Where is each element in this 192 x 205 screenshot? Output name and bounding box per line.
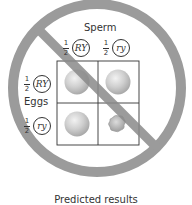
- sperm-fraction-ry-recessive: 1 2: [103, 40, 109, 57]
- pea-round-icon: [65, 112, 90, 137]
- sperm-allele-ry-dominant: RY: [72, 39, 90, 57]
- sperm-label: Sperm: [84, 23, 117, 33]
- egg-fraction-ry-recessive: 1 2: [24, 118, 30, 135]
- egg-allele-ry-dominant: RY: [33, 75, 51, 93]
- eggs-label: Eggs: [24, 97, 48, 107]
- diagram-caption: Predicted results: [0, 194, 192, 205]
- sperm-fraction-ry-dominant: 1 2: [63, 40, 69, 57]
- pea-round-icon: [106, 70, 131, 95]
- sperm-allele-ry-recessive: ry: [112, 39, 130, 57]
- egg-allele-ry-recessive: ry: [33, 117, 51, 135]
- egg-fraction-ry-dominant: 1 2: [24, 76, 30, 93]
- punnett-diagram: Sperm 1 2 RY 1 2 ry 1 2 RY Eggs 1 2 ry P…: [0, 0, 192, 205]
